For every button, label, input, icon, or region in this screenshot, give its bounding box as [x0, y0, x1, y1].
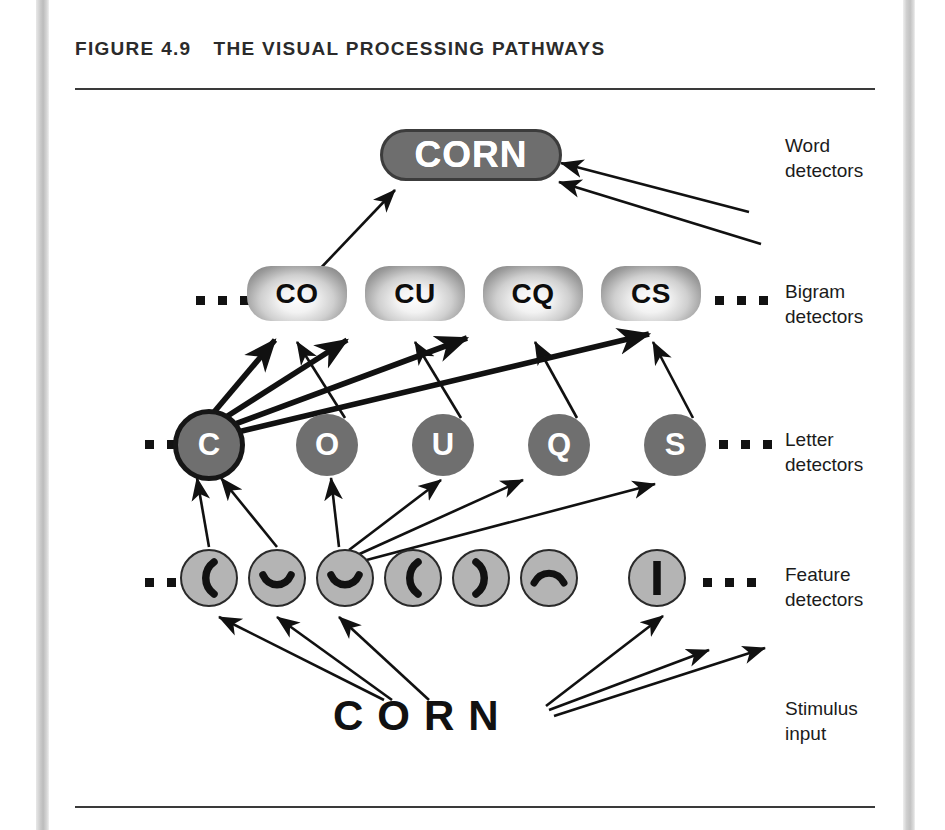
feature-node-7[interactable] — [628, 549, 686, 607]
cup-arc-icon — [257, 561, 297, 595]
figure-page: FIGURE 4.9THE VISUAL PROCESSING PATHWAYS — [49, 0, 903, 830]
feature-node-3[interactable] — [316, 549, 374, 607]
feature-node-5[interactable] — [452, 549, 510, 607]
stimulus-input-text: CORN — [333, 692, 513, 740]
page-gutter-left — [36, 0, 49, 830]
letter-node-label: U — [432, 427, 454, 463]
left-paren-arc-icon — [192, 558, 226, 598]
letter-node-o[interactable]: O — [296, 414, 358, 476]
bigram-node-cq[interactable]: CQ — [483, 266, 583, 321]
row-label-feature: Feature detectors — [785, 562, 863, 612]
bigram-node-co[interactable]: CO — [247, 266, 347, 321]
word-node-label: CORN — [415, 134, 528, 176]
word-node-corn[interactable]: CORN — [380, 129, 562, 181]
bigram-ellipsis-right — [715, 296, 768, 305]
row-label-bigram: Bigram detectors — [785, 279, 863, 329]
left-paren-arc-icon — [396, 558, 430, 598]
letter-node-label: C — [198, 427, 220, 463]
letter-node-label: S — [665, 427, 686, 463]
letter-ellipsis-left — [145, 440, 176, 449]
row-label-word: Word detectors — [785, 133, 863, 183]
feature-node-6[interactable] — [520, 549, 578, 607]
feature-node-1[interactable] — [180, 549, 238, 607]
bigram-node-label: CS — [631, 278, 671, 310]
letter-node-s[interactable]: S — [644, 414, 706, 476]
bigram-node-cu[interactable]: CU — [365, 266, 465, 321]
feature-to-letter-arrows — [197, 478, 655, 562]
letter-node-q[interactable]: Q — [528, 414, 590, 476]
diagram-canvas: CORN Word detectors CO CU CQ CS Bigram d… — [49, 0, 903, 830]
cup-arc-icon — [325, 561, 365, 595]
vertical-bar-icon — [649, 558, 665, 598]
letter-node-c[interactable]: C — [173, 409, 245, 481]
page-gutter-right — [903, 0, 915, 830]
feature-node-4[interactable] — [384, 549, 442, 607]
row-label-stimulus: Stimulus input — [785, 696, 858, 746]
bigram-node-label: CQ — [512, 278, 555, 310]
letter-node-label: O — [315, 427, 339, 463]
letter-node-label: Q — [547, 427, 571, 463]
feature-ellipsis-right — [703, 578, 756, 587]
bigram-node-label: CU — [394, 278, 435, 310]
right-paren-arc-icon — [464, 558, 498, 598]
cap-arc-icon — [529, 563, 569, 593]
bigram-ellipsis-left — [196, 296, 249, 305]
letter-ellipsis-right — [719, 440, 772, 449]
letter-node-u[interactable]: U — [412, 414, 474, 476]
bigram-node-cs[interactable]: CS — [601, 266, 701, 321]
bigram-node-label: CO — [276, 278, 319, 310]
feature-node-2[interactable] — [248, 549, 306, 607]
row-label-letter: Letter detectors — [785, 427, 863, 477]
